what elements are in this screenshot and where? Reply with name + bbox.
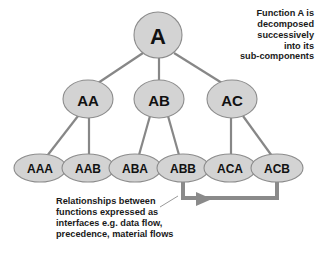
annotation-relationships: Relationships between functions expresse… — [56, 196, 173, 239]
node-label-aca: ACA — [217, 162, 243, 176]
node-acb[interactable]: ACB — [251, 154, 303, 182]
edge-ab-aba — [139, 116, 150, 155]
node-label-ab: AB — [148, 92, 170, 109]
edge-ab-abb — [168, 116, 179, 155]
node-abb[interactable]: ABB — [157, 154, 209, 182]
node-aa[interactable]: AA — [63, 80, 113, 118]
node-label-aa: AA — [77, 92, 99, 109]
flow-arrow-head-icon — [196, 192, 212, 206]
node-aab[interactable]: AAB — [62, 154, 114, 182]
node-aba[interactable]: ABA — [109, 154, 161, 182]
node-aca[interactable]: ACA — [204, 154, 256, 182]
node-label-aaa: AAA — [27, 162, 53, 176]
node-label-abb: ABB — [170, 162, 196, 176]
flow-arrow-group — [183, 182, 277, 206]
node-label-aab: AAB — [75, 162, 101, 176]
edge-a-ac — [174, 53, 222, 83]
edge-a-aa — [98, 53, 143, 83]
node-label-aba: ABA — [122, 162, 148, 176]
annotation-decomposition: Function A is decomposed successively in… — [240, 8, 314, 62]
node-aaa[interactable]: AAA — [14, 154, 66, 182]
node-a[interactable]: A — [134, 12, 182, 58]
edge-aa-aaa — [47, 116, 78, 156]
node-label-a: A — [150, 24, 166, 49]
node-label-ac: AC — [221, 92, 243, 109]
node-ac[interactable]: AC — [207, 80, 257, 118]
diagram-canvas: AAAABACAAAAABABAABBACAACB Function A is … — [0, 0, 318, 253]
node-ab[interactable]: AB — [134, 80, 184, 118]
node-label-acb: ACB — [264, 162, 290, 176]
edge-ac-acb — [243, 116, 272, 156]
